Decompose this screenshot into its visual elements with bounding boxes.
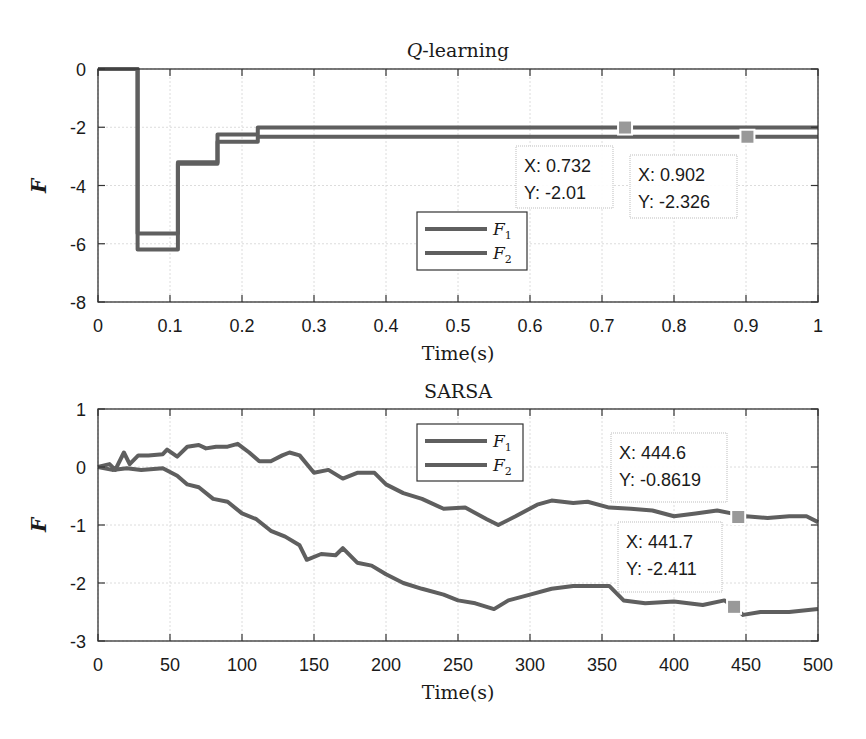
x-tick-label: 400 [659,655,689,675]
x-tick-label: 0.2 [229,316,254,336]
datatip-x: X: 0.902 [638,165,705,185]
sarsa-xlabel: Time(s) [422,681,495,703]
x-tick-label: 0.5 [445,316,470,336]
datatip-y: Y: -2.326 [638,192,710,212]
x-tick-label: 200 [371,655,401,675]
datatip-y: Y: -0.8619 [619,470,701,490]
x-tick-label: 300 [515,655,545,675]
y-tick-label: -1 [70,516,86,536]
y-tick-label: 1 [76,400,86,420]
sarsa-datatips[interactable]: X: 444.6Y: -0.8619X: 441.7Y: -2.411 [611,433,745,614]
x-tick-label: 50 [160,655,180,675]
x-tick-label: 100 [227,655,257,675]
q-learning-legend[interactable]: F1F2 [417,212,527,270]
y-tick-label: -4 [70,177,86,197]
x-tick-label: 0.3 [301,316,326,336]
x-tick-label: 0.6 [517,316,542,336]
datatip-marker[interactable] [727,600,741,614]
sarsa-ylabel: F [27,516,51,533]
q-learning-xlabel: Time(s) [422,342,495,364]
x-tick-label: 0.7 [589,316,614,336]
x-tick-label: 1 [813,316,823,336]
datatip-marker[interactable] [618,121,632,135]
y-tick-label: -6 [70,235,86,255]
q-learning-plot: Q-learning 00.10.20.30.40.50.60.70.80.91… [27,39,823,364]
datatip-x: X: 441.7 [626,532,693,552]
x-tick-label: 0.4 [373,316,398,336]
sarsa-plot: SARSA 05010015020025030035040045050010-1… [27,380,833,703]
y-tick-label: 0 [76,60,86,80]
x-tick-label: 0.9 [733,316,758,336]
datatip-y: Y: -2.411 [626,559,697,579]
y-tick-label: -2 [70,118,86,138]
y-tick-label: 0 [76,458,86,478]
x-tick-label: 350 [587,655,617,675]
x-tick-label: 150 [299,655,329,675]
x-tick-label: 0.8 [661,316,686,336]
datatip-marker[interactable] [740,130,754,144]
x-tick-label: 0 [93,655,103,675]
datatip-x: X: 0.732 [524,156,591,176]
sarsa-title: SARSA [424,380,492,402]
y-tick-label: -8 [70,293,86,313]
datatip-y: Y: -2.01 [524,183,586,203]
x-tick-label: 450 [731,655,761,675]
x-tick-label: 0.1 [157,316,182,336]
q-learning-title: Q-learning [407,39,509,61]
x-tick-label: 500 [803,655,833,675]
datatip-marker[interactable] [731,510,745,524]
x-tick-label: 250 [443,655,473,675]
figure: Q-learning 00.10.20.30.40.50.60.70.80.91… [0,0,866,739]
y-tick-label: -3 [70,632,86,652]
datatip-x: X: 444.6 [619,443,686,463]
q-learning-ylabel: F [27,177,51,194]
x-tick-label: 0 [93,316,103,336]
sarsa-legend[interactable]: F1F2 [417,424,523,481]
y-tick-label: -2 [70,574,86,594]
